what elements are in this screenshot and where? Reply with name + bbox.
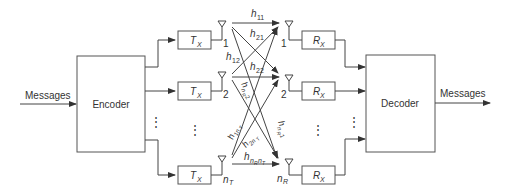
svg-text:T: T: [262, 160, 266, 166]
rx-antenna-n: n R: [277, 159, 302, 185]
enc-tx1-line: [145, 40, 175, 67]
svg-text:T: T: [190, 170, 197, 181]
tx-antenna-n: n T: [211, 156, 234, 186]
svg-text:R: R: [283, 178, 288, 185]
gain-h11: h 11: [251, 8, 264, 21]
tx-antenna-2: 2: [211, 72, 229, 100]
tx-antenna-1: 1: [211, 21, 229, 49]
svg-text:X: X: [196, 176, 202, 183]
svg-text:2: 2: [281, 89, 287, 100]
decoder-label: Decoder: [381, 98, 419, 109]
svg-text:X: X: [196, 92, 202, 99]
svg-text:X: X: [319, 41, 325, 48]
rx-block-2: R X: [302, 82, 335, 100]
svg-text:T: T: [190, 86, 197, 97]
gain-h1nT: h 1n T: [225, 121, 244, 142]
gain-h12: h 12: [226, 51, 240, 64]
svg-text:22: 22: [256, 67, 264, 74]
svg-text:1: 1: [279, 134, 286, 140]
svg-text:X: X: [196, 41, 202, 48]
svg-text:X: X: [319, 92, 325, 99]
tx-block-2: T X: [178, 82, 211, 100]
svg-text:2: 2: [223, 89, 229, 100]
svg-text:1: 1: [281, 38, 287, 49]
tx-ellipsis: ⋮: [189, 123, 201, 137]
rx1-dec-line: [335, 40, 365, 67]
rx-ellipsis: ⋮: [312, 123, 324, 137]
svg-text:X: X: [319, 176, 325, 183]
rx-antenna-2: 2: [281, 75, 302, 100]
svg-text:T: T: [229, 179, 234, 186]
enc-txn-line: [145, 140, 175, 175]
rxn-dec-line: [335, 139, 365, 175]
tx-block-1: T X: [178, 31, 211, 49]
rx-block-1: R X: [302, 31, 335, 49]
svg-text:12: 12: [232, 57, 240, 64]
rx-antenna-1: 1: [281, 21, 302, 49]
svg-text:21: 21: [256, 34, 264, 41]
output-label: Messages: [440, 88, 486, 99]
gain-h22: h 22: [250, 61, 264, 74]
svg-text:11: 11: [257, 14, 264, 21]
decoder-ellipsis: ⋮: [348, 115, 360, 129]
gain-h2nT: h 2n T: [240, 130, 262, 152]
encoder-ellipsis: ⋮: [150, 115, 162, 129]
mimo-diagram: Messages Encoder ⋮ T X T X ⋮ T X 1 2 n T: [0, 0, 510, 195]
encoder-label: Encoder: [92, 99, 130, 110]
gain-h21: h 21: [250, 28, 264, 41]
gain-hnR1: h n R 1: [272, 119, 291, 140]
tx-block-n: T X: [178, 166, 211, 184]
rx-block-n: R X: [302, 166, 335, 184]
input-label: Messages: [25, 90, 71, 101]
svg-text:1: 1: [223, 38, 229, 49]
svg-text:T: T: [237, 124, 244, 130]
svg-text:T: T: [190, 35, 197, 46]
